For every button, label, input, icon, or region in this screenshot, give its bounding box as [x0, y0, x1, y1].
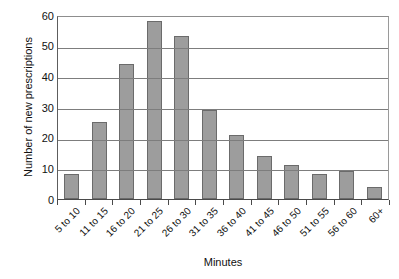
- x-axis-tick-mark: [168, 200, 169, 205]
- y-axis-tick-label: 0: [28, 195, 54, 206]
- gridline: [58, 170, 388, 171]
- x-axis-tick-mark: [85, 200, 86, 205]
- gridline: [58, 140, 388, 141]
- bar[interactable]: [229, 135, 244, 199]
- bar-slot: [333, 17, 361, 199]
- x-axis-tick-mark: [57, 200, 58, 205]
- bar-slot: [306, 17, 334, 199]
- x-axis-tick-mark: [140, 200, 141, 205]
- gridline: [58, 78, 388, 79]
- x-axis-tick-mark: [306, 200, 307, 205]
- bar[interactable]: [174, 36, 189, 199]
- bar[interactable]: [64, 174, 79, 199]
- x-axis-tick-mark: [361, 200, 362, 205]
- y-axis-tick-label: 50: [28, 41, 54, 52]
- x-axis-tick-mark: [278, 200, 279, 205]
- bar[interactable]: [312, 174, 327, 199]
- bar[interactable]: [367, 187, 382, 199]
- bar-slot: [168, 17, 196, 199]
- bar-slot: [278, 17, 306, 199]
- gridline: [58, 109, 388, 110]
- x-axis-tick-mark: [389, 200, 390, 205]
- y-axis-tick-label: 10: [28, 164, 54, 175]
- y-axis-tick-labels: 0102030405060: [28, 10, 54, 204]
- x-axis-tick-mark: [251, 200, 252, 205]
- bar-slot: [113, 17, 141, 199]
- bar-slot: [196, 17, 224, 199]
- bar[interactable]: [257, 156, 272, 199]
- x-axis-tick-labels: 5 to 1011 to 1516 to 2021 to 2526 to 303…: [57, 206, 389, 250]
- y-axis-tick-label: 40: [28, 72, 54, 83]
- x-axis-tick-mark: [195, 200, 196, 205]
- bar[interactable]: [202, 110, 217, 199]
- y-axis-tick-label: 60: [28, 11, 54, 22]
- bar-chart: Number of new prescriptions 010203040506…: [0, 0, 399, 279]
- bar-slot: [58, 17, 86, 199]
- y-axis-tick-label: 20: [28, 133, 54, 144]
- bar-slot: [361, 17, 389, 199]
- x-axis-title: Minutes: [57, 256, 389, 268]
- bar-slot: [251, 17, 279, 199]
- x-axis-tick-mark: [334, 200, 335, 205]
- plot-area: [57, 16, 389, 200]
- bar[interactable]: [119, 64, 134, 199]
- x-axis-tick-mark: [223, 200, 224, 205]
- bar-slot: [86, 17, 114, 199]
- x-axis-tick-mark: [112, 200, 113, 205]
- bar-slot: [223, 17, 251, 199]
- bars-layer: [58, 17, 388, 199]
- gridline: [58, 48, 388, 49]
- bar-slot: [141, 17, 169, 199]
- bar[interactable]: [339, 171, 354, 199]
- y-axis-tick-label: 30: [28, 103, 54, 114]
- bar[interactable]: [92, 122, 107, 199]
